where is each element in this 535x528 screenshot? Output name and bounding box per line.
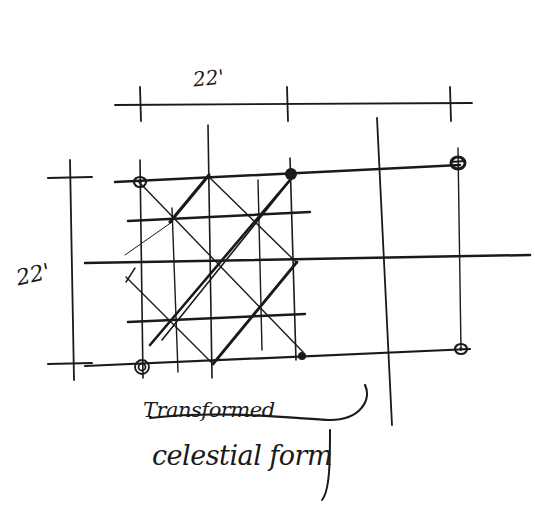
diagonal-line xyxy=(125,222,172,255)
node-filled-icon xyxy=(298,352,306,360)
grid-line-vertical xyxy=(208,125,212,378)
celestial-diagonals xyxy=(125,175,303,364)
column-node-top-mid xyxy=(285,168,297,180)
caption-line-2: celestial form xyxy=(152,440,332,471)
grid-line-horizontal xyxy=(128,314,305,322)
column-nodes xyxy=(134,157,467,374)
vertical-dimension-line xyxy=(70,160,74,380)
caption-line-1: Transformed xyxy=(143,398,275,422)
diagonal-line xyxy=(170,175,209,222)
dimension-tick xyxy=(450,87,451,121)
grid-line-vertical xyxy=(458,148,461,350)
column-node-bottom-mid xyxy=(298,352,306,360)
node-filled-icon xyxy=(285,168,297,180)
grid-line-vertical xyxy=(258,180,262,350)
dimension-tick xyxy=(48,363,92,364)
top-dimension-label: 22' xyxy=(192,64,225,91)
dimension-tick xyxy=(48,177,92,178)
dimension-tick xyxy=(287,87,288,121)
node-cross-icon xyxy=(450,161,466,162)
node-dot-icon xyxy=(138,180,142,184)
grid-line-vertical xyxy=(140,160,143,378)
grid-line-horizontal xyxy=(85,255,530,263)
node-dot-icon xyxy=(459,347,463,351)
horizontal-dimension-line xyxy=(115,103,472,105)
diagonal-line xyxy=(126,268,135,282)
structural-grid xyxy=(85,118,530,425)
grid-line-vertical xyxy=(377,118,392,425)
grid-line-vertical xyxy=(172,208,178,372)
grid-line-horizontal xyxy=(128,212,310,221)
diagonal-line xyxy=(213,262,297,364)
dimension-lines xyxy=(48,87,472,380)
dimension-tick xyxy=(140,87,141,121)
